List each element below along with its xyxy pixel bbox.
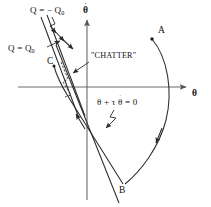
leader-sliding-line bbox=[106, 110, 116, 128]
axis-theta-dot-wrap: ˙θ bbox=[83, 6, 88, 16]
sliding-eq-suffix: = 0 bbox=[122, 97, 137, 107]
point-label-A: A bbox=[158, 26, 165, 36]
label-Q-equals-minus-Q0: Q = − Q0 bbox=[30, 6, 65, 16]
trajectories-group bbox=[54, 39, 169, 184]
point-label-B: B bbox=[119, 186, 126, 196]
arrow-switch-lower bbox=[60, 37, 73, 49]
label-Q-minus-Q0-text: Q = − Q bbox=[30, 5, 61, 15]
point-marker-A bbox=[150, 37, 153, 40]
trajectory-A-to-B bbox=[125, 39, 169, 184]
theta-dot-overdot: ˙ bbox=[119, 94, 122, 101]
label-Q-equals-Q0: Q = Q0 bbox=[8, 44, 35, 54]
label-sliding-line-equation: θ + τ ˙θ = 0 bbox=[97, 98, 137, 107]
axis-overdot: ˙ bbox=[84, 2, 87, 9]
label-chatter: "CHATTER" bbox=[91, 52, 136, 60]
sliding-eq-theta-dot: ˙θ bbox=[118, 98, 123, 107]
label-Q-Q0-sub: 0 bbox=[32, 48, 35, 54]
direction-arrows-group bbox=[52, 28, 162, 143]
point-label-C: C bbox=[47, 57, 54, 67]
axes-group bbox=[18, 20, 186, 200]
label-Q-Q0-text: Q = Q bbox=[8, 43, 32, 53]
axis-label-theta: θ bbox=[192, 89, 197, 99]
label-Q-minus-Q0-sub: 0 bbox=[61, 10, 64, 16]
switching-line-upper bbox=[41, 17, 79, 118]
axis-label-theta-dot: ˙θ bbox=[83, 6, 88, 16]
sliding-eq-prefix: θ + τ bbox=[97, 97, 118, 107]
